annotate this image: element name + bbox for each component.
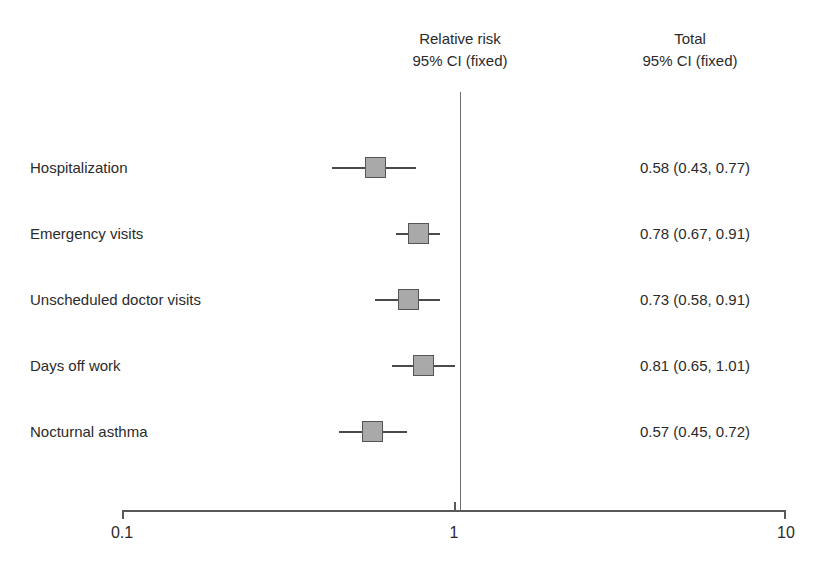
point-estimate-marker <box>362 421 383 442</box>
total-header-line1: Total <box>560 28 820 50</box>
row-value: 0.78 (0.67, 0.91) <box>570 214 820 254</box>
row-label: Emergency visits <box>30 214 143 254</box>
row-label: Days off work <box>30 346 121 386</box>
x-axis-left-cap <box>122 510 124 519</box>
point-estimate-marker <box>398 289 419 310</box>
row-value: 0.73 (0.58, 0.91) <box>570 280 820 320</box>
table-row: Unscheduled doctor visits0.73 (0.58, 0.9… <box>0 280 826 320</box>
x-axis-tick-label: 1 <box>450 524 459 542</box>
row-label: Unscheduled doctor visits <box>30 280 201 320</box>
row-label: Hospitalization <box>30 148 128 188</box>
table-row: Nocturnal asthma0.57 (0.45, 0.72) <box>0 412 826 452</box>
x-axis-right-cap <box>784 510 786 519</box>
point-estimate-marker <box>413 355 434 376</box>
row-value: 0.57 (0.45, 0.72) <box>570 412 820 452</box>
row-value: 0.58 (0.43, 0.77) <box>570 148 820 188</box>
total-header-line2: 95% CI (fixed) <box>560 50 820 72</box>
table-row: Emergency visits0.78 (0.67, 0.91) <box>0 214 826 254</box>
forest-plot: Relative risk 95% CI (fixed) Total 95% C… <box>0 0 826 574</box>
total-column-header: Total 95% CI (fixed) <box>560 28 820 72</box>
table-row: Hospitalization0.58 (0.43, 0.77) <box>0 148 826 188</box>
row-label: Nocturnal asthma <box>30 412 148 452</box>
point-estimate-marker <box>365 157 386 178</box>
x-axis-tick <box>454 502 456 511</box>
row-value: 0.81 (0.65, 1.01) <box>570 346 820 386</box>
x-axis-tick-label: 0.1 <box>111 524 133 542</box>
x-axis-tick-label: 10 <box>777 524 795 542</box>
table-row: Days off work0.81 (0.65, 1.01) <box>0 346 826 386</box>
point-estimate-marker <box>408 223 429 244</box>
